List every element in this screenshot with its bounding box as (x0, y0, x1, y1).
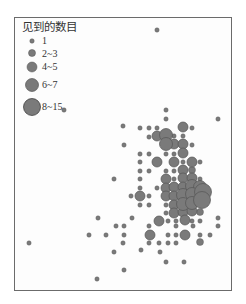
legend-marker-icon (21, 94, 43, 118)
data-point (174, 224, 178, 228)
data-point (197, 209, 204, 216)
data-point (178, 139, 188, 149)
data-point (208, 233, 212, 237)
data-point (112, 177, 116, 181)
data-point (147, 152, 151, 156)
data-point (155, 126, 159, 130)
data-point (147, 126, 151, 130)
data-point (154, 216, 164, 226)
data-point (174, 241, 178, 245)
data-point (147, 241, 151, 245)
legend-label: 4~5 (42, 60, 57, 73)
data-point (182, 260, 186, 264)
data-point (216, 216, 220, 220)
legend-label: 6~7 (42, 78, 57, 91)
data-point (158, 250, 162, 254)
data-point (164, 211, 168, 215)
data-point (157, 241, 161, 245)
data-point (178, 173, 188, 183)
data-point (114, 224, 118, 228)
data-point (164, 117, 168, 121)
data-point (95, 277, 99, 281)
data-point (178, 148, 188, 158)
data-point (181, 134, 185, 138)
data-point (174, 233, 178, 237)
data-point (164, 108, 168, 112)
data-point (121, 124, 125, 128)
legend-entry-1: 1 (22, 34, 77, 47)
data-point (164, 169, 168, 173)
data-point (135, 191, 145, 201)
data-point (172, 177, 176, 181)
data-point (138, 152, 142, 156)
data-point (138, 177, 142, 181)
data-point (164, 203, 168, 207)
legend-label: 8~15 (42, 100, 62, 113)
legend-marker-icon (22, 60, 42, 75)
data-point (129, 194, 133, 198)
data-point (87, 233, 91, 237)
data-point (190, 219, 194, 223)
data-point (152, 157, 162, 167)
data-point (172, 152, 176, 156)
legend: 见到的数目 1 2~3 4~5 6~7 8~15 (22, 21, 77, 118)
legend-entry-3: 4~5 (22, 60, 77, 75)
data-point (174, 219, 178, 223)
legend-label: 1 (42, 34, 47, 47)
data-point (172, 169, 176, 173)
data-point (198, 233, 202, 237)
data-point (130, 216, 134, 220)
data-point (138, 169, 142, 173)
data-point (181, 160, 185, 164)
data-point (138, 160, 142, 164)
data-point (112, 250, 116, 254)
data-point (216, 224, 220, 228)
legend-marker-icon (22, 34, 42, 47)
data-point (121, 241, 125, 245)
data-point (198, 219, 202, 223)
data-point (104, 233, 108, 237)
data-point (147, 169, 151, 173)
data-point (122, 268, 126, 272)
data-point (147, 224, 151, 228)
legend-marker-icon (22, 47, 42, 60)
data-point (166, 233, 170, 237)
data-point (198, 160, 202, 164)
data-point (216, 117, 220, 121)
data-point (190, 143, 194, 147)
legend-entry-5: 8~15 (22, 94, 77, 118)
data-point (164, 260, 168, 264)
data-point (187, 157, 197, 167)
data-point (164, 152, 168, 156)
data-point (166, 241, 170, 245)
legend-entry-2: 2~3 (22, 47, 77, 60)
data-point (169, 157, 179, 167)
data-point (155, 186, 159, 190)
data-point (180, 230, 190, 240)
data-point (155, 28, 159, 32)
legend-title: 见到的数目 (22, 21, 77, 34)
data-point (27, 241, 31, 245)
data-point (138, 186, 142, 190)
data-point (147, 203, 151, 207)
data-point (169, 182, 179, 192)
data-point (189, 167, 196, 174)
data-point (191, 224, 195, 228)
data-point (96, 216, 100, 220)
data-point (197, 239, 204, 246)
legend-entry-4: 6~7 (22, 75, 77, 94)
data-point (194, 192, 211, 209)
data-point (190, 126, 194, 130)
legend-label: 2~3 (42, 47, 57, 60)
data-point (147, 135, 151, 139)
data-point (147, 194, 151, 198)
data-point (178, 122, 188, 132)
data-point (139, 248, 143, 252)
data-point (138, 126, 142, 130)
data-point (160, 138, 173, 151)
data-point (161, 174, 171, 184)
data-point (169, 208, 179, 218)
data-point (138, 203, 142, 207)
data-point (166, 219, 170, 223)
data-point (122, 233, 126, 237)
